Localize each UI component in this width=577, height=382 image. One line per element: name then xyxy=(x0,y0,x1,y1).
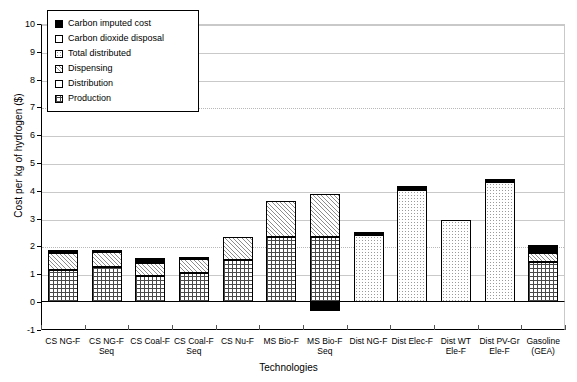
legend-swatch-icon xyxy=(55,35,63,43)
legend-item-label: Dispensing xyxy=(68,64,113,73)
bar-segment-carbon-imputed-cost xyxy=(92,250,122,252)
bar-segment-carbon-imputed-cost xyxy=(397,186,427,190)
bar-segment-total-distributed xyxy=(354,235,384,302)
bar-segment-carbon-imputed-cost xyxy=(485,179,515,182)
bar-gasoline-gea[interactable] xyxy=(528,245,558,302)
bar-segment-production xyxy=(528,262,558,302)
x-tick-mark-0 xyxy=(41,325,42,330)
x-axis-title: Technologies xyxy=(0,362,577,373)
bar-cs-ng-f-seq[interactable] xyxy=(92,251,122,302)
bar-segment-dispensing xyxy=(48,253,78,270)
x-tick-mark-4 xyxy=(216,325,217,330)
bar-segment-carbon-imputed-cost xyxy=(179,257,209,259)
bar-segment-carbon-imputed-cost xyxy=(354,232,384,235)
bar-cs-coal-f-seq[interactable] xyxy=(179,257,209,302)
bar-segment-production xyxy=(48,270,78,302)
bar-segment-negative-carbon-imputed-cost xyxy=(310,302,340,311)
bar-cs-nu-f[interactable] xyxy=(223,237,253,302)
x-tick-mark-8 xyxy=(390,325,391,330)
legend-item-production: Production xyxy=(55,91,192,106)
bar-segment-production xyxy=(310,237,340,302)
bar-segment-total-distributed xyxy=(485,182,515,302)
legend-item-distribution: Distribution xyxy=(55,76,192,91)
bar-segment-dispensing xyxy=(528,253,558,262)
legend-swatch-icon xyxy=(55,20,63,28)
x-tick-mark-2 xyxy=(128,325,129,330)
bar-cs-ng-f[interactable] xyxy=(48,250,78,302)
legend-item-carbon-dioxide-disposal: Carbon dioxide disposal xyxy=(55,31,192,46)
bar-segment-dispensing xyxy=(310,194,340,237)
bar-segment-production xyxy=(92,267,122,302)
legend-swatch-icon xyxy=(55,65,63,73)
legend-swatch-icon xyxy=(55,50,63,58)
legend-item-carbon-imputed-cost: Carbon imputed cost xyxy=(55,16,192,31)
legend-item-dispensing: Dispensing xyxy=(55,61,192,76)
bar-segment-production xyxy=(135,276,165,302)
bar-segment-carbon-imputed-cost xyxy=(528,245,558,253)
bar-ms-bio-f[interactable] xyxy=(266,201,296,302)
x-tick-mark-9 xyxy=(434,325,435,330)
x-tick-mark-11 xyxy=(521,325,522,330)
bar-segment-production xyxy=(179,273,209,302)
bar-dist-elec-f[interactable] xyxy=(397,186,427,302)
bar-ms-bio-f-seq[interactable] xyxy=(310,194,340,302)
legend-item-label: Carbon imputed cost xyxy=(68,19,151,28)
chart-legend: Carbon imputed costCarbon dioxide dispos… xyxy=(47,10,199,112)
x-tick-mark-6 xyxy=(303,325,304,330)
x-tick-mark-1 xyxy=(85,325,86,330)
bar-segment-production xyxy=(223,260,253,302)
bar-segment-dispensing xyxy=(179,259,209,273)
bar-segment-dispensing xyxy=(266,201,296,237)
x-axis-label-gasoline-gea: Gasoline(GEA) xyxy=(515,336,571,356)
bar-segment-dispensing xyxy=(223,237,253,261)
x-tick-mark-10 xyxy=(478,325,479,330)
bar-dist-pv-gr-ele-f[interactable] xyxy=(485,179,515,302)
legend-item-label: Distribution xyxy=(68,79,113,88)
x-axis-ticks xyxy=(41,330,565,332)
bar-dist-ng-f[interactable] xyxy=(354,232,384,302)
bar-dist-wt-ele-f[interactable] xyxy=(441,220,471,302)
bar-cs-coal-f[interactable] xyxy=(135,258,165,302)
bar-segment-production xyxy=(266,237,296,302)
bar-segment-total-distributed xyxy=(397,190,427,302)
legend-item-label: Carbon dioxide disposal xyxy=(68,34,164,43)
legend-swatch-icon xyxy=(55,95,63,103)
bar-segment-carbon-imputed-cost xyxy=(135,258,165,263)
legend-swatch-icon xyxy=(55,80,63,88)
hydrogen-cost-bar-chart: -1012345678910 Cost per kg of hydrogen (… xyxy=(0,0,577,382)
x-tick-mark-3 xyxy=(172,325,173,330)
bar-segment-carbon-imputed-cost xyxy=(48,250,78,253)
x-tick-mark-5 xyxy=(259,325,260,330)
legend-item-label: Total distributed xyxy=(68,49,131,58)
legend-item-total-distributed: Total distributed xyxy=(55,46,192,61)
x-tick-mark-7 xyxy=(347,325,348,330)
x-tick-mark-12 xyxy=(565,325,566,330)
bar-segment-dispensing xyxy=(92,252,122,267)
bar-segment-dispensing xyxy=(135,263,165,276)
bar-segment-total-distributed xyxy=(441,220,471,302)
legend-item-label: Production xyxy=(68,94,111,103)
